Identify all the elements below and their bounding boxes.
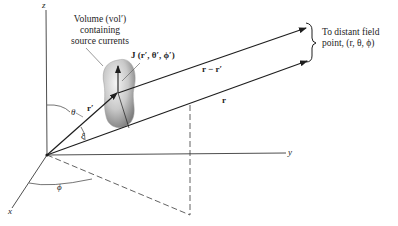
xi-label: ξ — [81, 131, 85, 142]
z-axis-label: z — [42, 0, 46, 11]
volume-label: Volume (vol′) containing source currents — [54, 14, 146, 47]
current-density-label-text: J (r′, θ′, ϕ′) — [131, 50, 175, 60]
theta-label: θ — [71, 107, 75, 118]
r-minus-r-prime-label: r − r′ — [202, 64, 222, 75]
field-point-label-line2: point, (r, θ, ϕ) — [322, 38, 379, 49]
field-point-brace — [306, 23, 316, 62]
x-axis-label: x — [8, 206, 12, 217]
field-point-label: To distant field point, (r, θ, ϕ) — [322, 27, 379, 49]
field-point-label-line1: To distant field — [322, 27, 379, 38]
volume-label-line1: Volume (vol′) — [54, 14, 146, 25]
r-prime-vector — [47, 93, 117, 155]
phi-label: ϕ — [57, 182, 62, 193]
volume-label-line2: containing — [54, 25, 146, 36]
r-label: r — [222, 95, 226, 106]
x-axis — [12, 155, 47, 208]
theta-leader-line — [76, 113, 83, 117]
volume-leader-line — [86, 48, 103, 66]
current-density-label: J (r′, θ′, ϕ′) — [131, 50, 175, 61]
origin-point — [45, 153, 48, 156]
r-vector — [47, 61, 307, 155]
projection-line — [47, 155, 190, 215]
y-axis-label: y — [288, 147, 292, 158]
volume-label-line3: source currents — [54, 36, 146, 47]
r-prime-label: r′ — [87, 103, 94, 114]
z-axis — [46, 10, 47, 155]
y-axis — [47, 153, 286, 155]
source-volume-blob — [103, 59, 135, 127]
theta-arc — [47, 105, 70, 112]
